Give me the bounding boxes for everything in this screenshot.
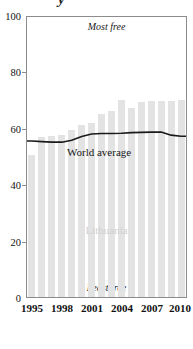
x-tick-label: 2007: [141, 302, 163, 314]
plot-area: Most free Least free Lithuania World ave…: [26, 16, 187, 298]
y-tick-label: 100: [0, 11, 21, 22]
x-tick-label: 2010: [169, 302, 191, 314]
x-axis: 1995 1998 2001 2004 2007 2010: [0, 302, 193, 322]
annotation-world-average-label: World average: [67, 146, 131, 158]
x-tick-label: 1995: [21, 302, 43, 314]
y-tick-label: 80: [0, 67, 21, 78]
chart-container: y 100 80 60 40 20 0 Most free Least free: [0, 0, 193, 349]
y-tick-label: 40: [0, 180, 21, 191]
x-tick-label: 2004: [111, 302, 133, 314]
y-tick-label: 60: [0, 123, 21, 134]
annotation-country-label: Lithuania: [27, 224, 186, 236]
y-tick-label: 20: [0, 236, 21, 247]
x-tick-label: 1998: [51, 302, 73, 314]
x-tick-label: 2001: [81, 302, 103, 314]
